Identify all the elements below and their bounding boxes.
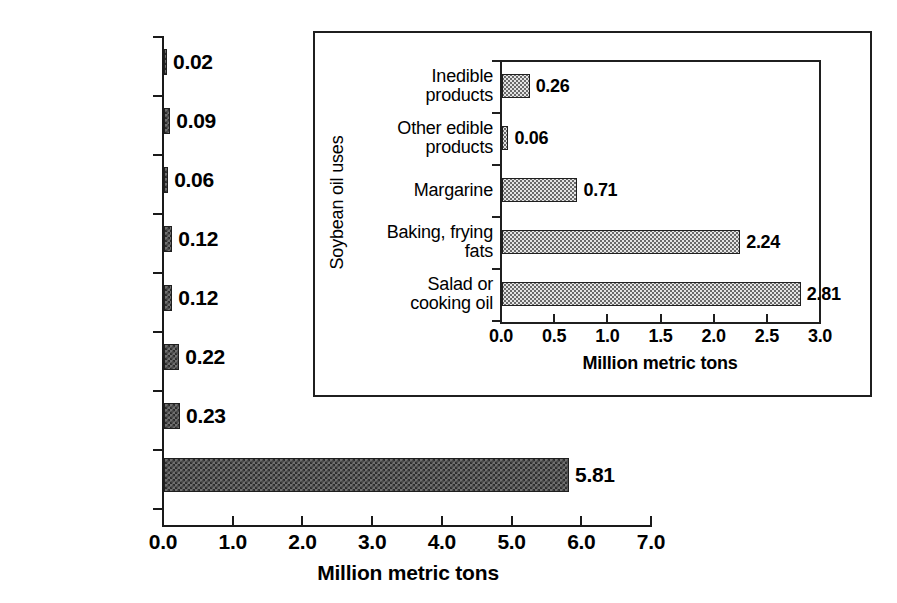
- main-chart-y-tick: [153, 36, 162, 38]
- main-chart-x-tick-label: 0.0: [149, 530, 177, 554]
- main-chart-y-tick: [153, 272, 162, 274]
- main-chart-value-label: 0.12: [178, 227, 218, 251]
- inset-chart-y-tick: [492, 320, 500, 322]
- inset-chart-x-tick-label: 1.5: [648, 326, 672, 347]
- main-chart-y-tick: [153, 449, 162, 451]
- inset-chart-x-tick: [553, 314, 555, 322]
- main-chart-x-tick: [371, 516, 373, 525]
- main-chart-x-tick-label: 1.0: [219, 530, 247, 554]
- inset-chart-category-label: Other edibleproducts: [397, 119, 493, 157]
- inset-chart-y-axis-title: Soybean oil uses: [327, 103, 348, 303]
- inset-chart-bar: [502, 230, 740, 254]
- inset-chart-x-tick-label: 2.5: [755, 326, 779, 347]
- inset-chart-x-tick-label: 3.0: [808, 326, 832, 347]
- inset-chart-category-label-line: products: [426, 85, 493, 105]
- main-chart-x-tick-label: 6.0: [567, 530, 595, 554]
- main-chart-x-axis-line: [162, 525, 652, 527]
- inset-chart-value-label: 2.81: [807, 284, 841, 305]
- inset-chart-category-label-line: Baking, frying: [387, 222, 493, 242]
- inset-chart-x-tick-label: 1.0: [595, 326, 619, 347]
- inset-chart-y-tick: [492, 112, 500, 114]
- main-chart-x-tick: [301, 516, 303, 525]
- inset-chart-category-label-line: Margarine: [414, 180, 493, 200]
- inset-chart-category-label-line: Inedible: [432, 66, 493, 86]
- inset-chart-x-tick: [500, 314, 502, 322]
- inset-chart-x-tick: [713, 314, 715, 322]
- inset-chart-x-tick: [660, 314, 662, 322]
- inset-chart-bar: [502, 74, 530, 98]
- inset-chart-x-tick: [766, 314, 768, 322]
- inset-chart-x-tick-label: 2.0: [702, 326, 726, 347]
- main-chart-y-tick: [153, 154, 162, 156]
- main-chart-y-tick: [153, 95, 162, 97]
- main-chart-bar: [164, 226, 172, 252]
- main-chart-y-tick: [153, 213, 162, 215]
- main-chart-x-tick-label: 5.0: [497, 530, 525, 554]
- inset-chart-x-tick: [819, 314, 821, 322]
- inset-chart-x-tick-label: 0.5: [542, 326, 566, 347]
- inset-chart-category-label-line: products: [426, 137, 493, 157]
- main-chart-x-tick: [580, 516, 582, 525]
- main-chart-y-tick: [153, 390, 162, 392]
- main-chart-x-tick-label: 4.0: [428, 530, 456, 554]
- main-chart-x-tick: [650, 516, 652, 525]
- main-chart-x-tick: [441, 516, 443, 525]
- main-chart-value-label: 0.06: [174, 168, 214, 192]
- main-chart-x-tick-label: 2.0: [288, 530, 316, 554]
- main-chart-bar: [164, 403, 180, 429]
- inset-chart-category-label-line: cooking oil: [410, 293, 493, 313]
- main-chart-y-tick: [153, 508, 162, 510]
- inset-chart-value-label: 0.26: [536, 76, 570, 97]
- main-chart-value-label: 0.23: [186, 404, 226, 428]
- main-chart-x-tick: [162, 516, 164, 525]
- inset-bar-chart-panel: Soybean oil uses 0.00.51.01.52.02.53.0 I…: [313, 31, 872, 397]
- inset-chart-category-label: Baking, fryingfats: [387, 223, 493, 261]
- main-chart-value-label: 0.02: [173, 50, 213, 74]
- inset-chart-frame-top: [500, 60, 821, 62]
- main-chart-y-tick: [153, 331, 162, 333]
- inset-chart-x-axis-line: [500, 322, 821, 324]
- inset-chart-x-axis-title: Million metric tons: [582, 353, 737, 374]
- main-chart-bar: [164, 167, 168, 193]
- inset-chart-y-tick: [492, 216, 500, 218]
- inset-chart-y-tick: [492, 164, 500, 166]
- main-chart-x-tick-label: 7.0: [637, 530, 665, 554]
- main-chart-x-tick: [232, 516, 234, 525]
- inset-chart-y-tick: [492, 268, 500, 270]
- inset-chart-x-tick: [606, 314, 608, 322]
- inset-chart-bar: [502, 282, 801, 306]
- main-chart-bar: [164, 49, 167, 75]
- inset-chart-y-tick: [492, 60, 500, 62]
- inset-chart-category-label: Margarine: [414, 181, 493, 200]
- main-chart-bar: [164, 344, 179, 370]
- inset-chart-value-label: 0.06: [514, 128, 548, 149]
- main-chart-bar: [164, 108, 170, 134]
- main-chart-bar: [164, 458, 569, 492]
- inset-chart-bar: [502, 178, 577, 202]
- inset-chart-x-tick-label: 0.0: [489, 326, 513, 347]
- main-chart-value-label: 0.12: [178, 286, 218, 310]
- inset-chart-category-label: Salad orcooking oil: [410, 275, 493, 313]
- inset-chart-value-label: 0.71: [583, 180, 617, 201]
- main-chart-x-tick-label: 3.0: [358, 530, 386, 554]
- inset-chart-value-label: 2.24: [746, 232, 780, 253]
- main-chart-x-axis-title: Million metric tons: [317, 561, 499, 585]
- inset-chart-category-label: Inedibleproducts: [426, 67, 493, 105]
- inset-chart-bar: [502, 126, 508, 150]
- inset-chart-category-label-line: fats: [465, 241, 493, 261]
- main-chart-x-tick: [511, 516, 513, 525]
- inset-chart-category-label-line: Salad or: [428, 274, 493, 294]
- main-chart-bar: [164, 285, 172, 311]
- main-chart-value-label: 5.81: [575, 463, 615, 487]
- main-chart-value-label: 0.09: [176, 109, 216, 133]
- main-chart-value-label: 0.22: [185, 345, 225, 369]
- inset-chart-category-label-line: Other edible: [397, 118, 493, 138]
